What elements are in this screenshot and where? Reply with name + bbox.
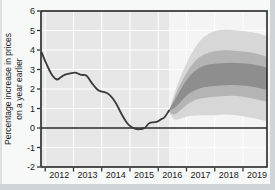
y-tick-label: -2	[27, 162, 35, 172]
x-tick-label: 2014	[106, 170, 126, 180]
x-tick-label: 2019	[247, 170, 267, 180]
y-axis-title-line2: on a year earlier	[14, 9, 25, 169]
x-tick-label: 2017	[191, 170, 211, 180]
x-tick-label: 2016	[162, 170, 182, 180]
x-tick-label: 2015	[134, 170, 154, 180]
fan-chart-figure: 20122013201420152016201720182019-2-10123…	[0, 0, 275, 190]
y-tick-label: 0	[30, 123, 35, 133]
y-axis-title: Percentage increase in prices on a year …	[3, 9, 27, 169]
y-tick-label: 6	[30, 6, 35, 16]
y-tick-label: 4	[30, 45, 35, 55]
y-tick-label: 3	[30, 65, 35, 75]
y-tick-label: -1	[27, 143, 35, 153]
chart-canvas: 20122013201420152016201720182019-2-10123…	[0, 0, 275, 190]
x-tick-label: 2012	[49, 170, 69, 180]
page-edge-left	[0, 0, 2, 190]
x-tick-label: 2018	[219, 170, 239, 180]
y-tick-label: 2	[30, 84, 35, 94]
page-edge-bottom	[0, 184, 275, 190]
page-edge-right	[270, 0, 275, 190]
x-tick-label: 2013	[78, 170, 98, 180]
y-tick-label: 5	[30, 26, 35, 36]
y-tick-label: 1	[30, 104, 35, 114]
y-axis-title-line1: Percentage increase in prices	[3, 9, 14, 169]
